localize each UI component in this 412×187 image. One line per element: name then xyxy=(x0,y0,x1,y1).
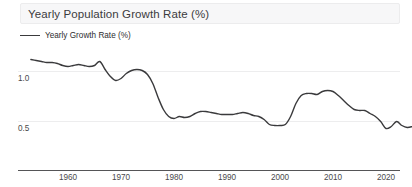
ytick-label-1.0: 1.0 xyxy=(18,74,29,83)
plot-area: 1.0 0.5 1960 1970 1980 1990 2000 2010 20… xyxy=(0,44,412,187)
page-title: Yearly Population Growth Rate (%) xyxy=(21,8,209,20)
ytick-label-0.5: 0.5 xyxy=(18,124,29,133)
chart-title-bar: Yearly Population Growth Rate (%) xyxy=(20,3,400,24)
series-line-yearly-growth-rate xyxy=(31,60,412,129)
chart-card: Yearly Population Growth Rate (%) Yearly… xyxy=(0,0,412,187)
legend-item-label: Yearly Growth Rate (%) xyxy=(45,31,131,40)
xtick-label-2010: 2010 xyxy=(324,173,342,182)
xtick-label-2020: 2020 xyxy=(377,173,395,182)
line-chart-svg xyxy=(0,44,412,187)
xtick-label-1990: 1990 xyxy=(218,173,236,182)
xtick-label-1960: 1960 xyxy=(59,173,77,182)
legend-line-swatch xyxy=(20,35,40,36)
chart-legend: Yearly Growth Rate (%) xyxy=(20,28,131,42)
xtick-label-1970: 1970 xyxy=(112,173,130,182)
xtick-label-2000: 2000 xyxy=(271,173,289,182)
xtick-label-1980: 1980 xyxy=(165,173,183,182)
